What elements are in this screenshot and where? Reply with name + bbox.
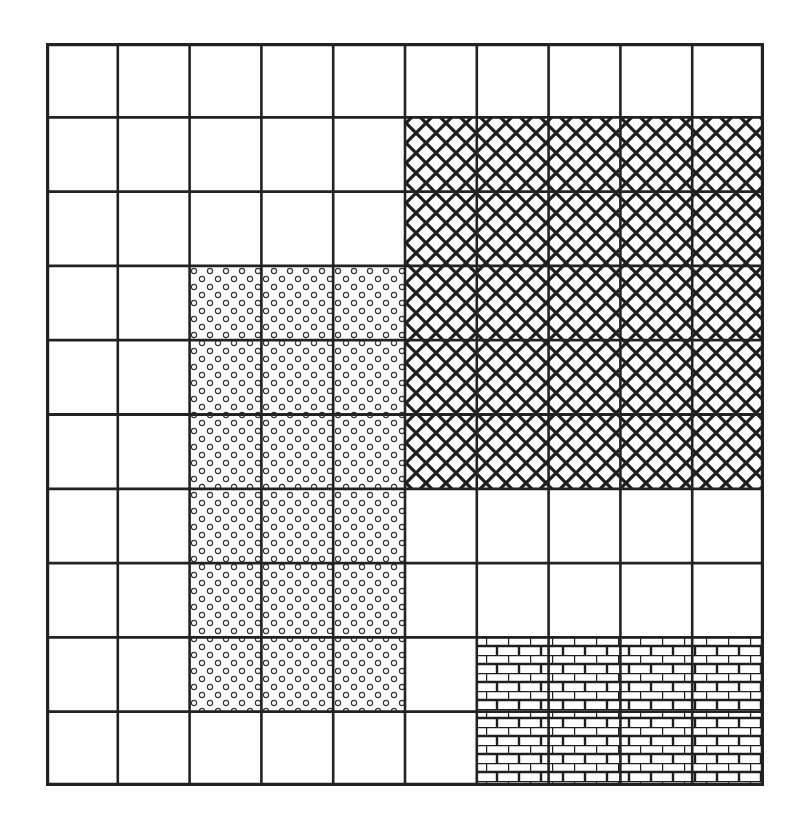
grid-svg [46, 43, 764, 786]
grid-board [46, 43, 764, 786]
crosshatch-region [405, 117, 764, 489]
